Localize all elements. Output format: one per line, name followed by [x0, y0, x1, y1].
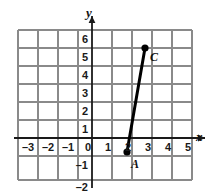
x-tick-5: 5 — [178, 142, 198, 153]
coordinate-plane-svg — [0, 0, 222, 195]
y-tick--2: –2 — [70, 182, 88, 193]
y-tick-1: 1 — [72, 124, 88, 135]
y-tick--1: –1 — [70, 160, 88, 171]
point-A-label: A — [131, 158, 139, 170]
x-tick--2: –2 — [38, 142, 58, 153]
graph-figure: x y –3 –2 –1 0 1 2 3 4 5 6 5 4 3 2 1 –1 … — [0, 0, 222, 195]
x-tick-1: 1 — [98, 142, 118, 153]
y-tick-6: 6 — [72, 34, 88, 45]
grid-lines — [18, 30, 192, 180]
point-C-marker — [141, 44, 148, 51]
x-tick-4: 4 — [158, 142, 178, 153]
y-tick-2: 2 — [72, 106, 88, 117]
y-tick-5: 5 — [72, 52, 88, 63]
x-tick--3: –3 — [18, 142, 38, 153]
x-tick-3: 3 — [138, 142, 158, 153]
x-tick--1: –1 — [58, 142, 78, 153]
x-tick-2: 2 — [118, 142, 138, 153]
y-axis-label: y — [86, 6, 92, 19]
y-tick-3: 3 — [72, 88, 88, 99]
point-C-label: C — [150, 51, 158, 63]
y-tick-4: 4 — [72, 70, 88, 81]
x-tick-0: 0 — [78, 142, 98, 153]
segment-AC — [127, 48, 145, 152]
